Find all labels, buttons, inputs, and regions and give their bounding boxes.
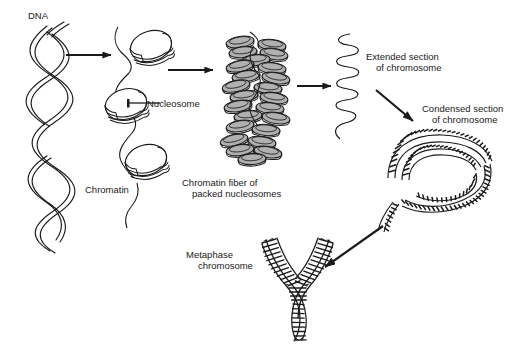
condensed-section-label-line1: Condensed section [422, 103, 503, 114]
extended-section-label-line2: of chromosome [376, 62, 441, 73]
arrow-extended-to-condensed [376, 90, 413, 121]
nucleosome-label: Nucleosome [147, 98, 200, 109]
chromatin-label: Chromatin [85, 184, 129, 195]
condensed-coil [378, 129, 492, 232]
arrow-condensed-to-metaphase [325, 226, 383, 267]
extended-section: Extended section of chromosome [336, 34, 442, 139]
chromatin-fiber: Chromatin fiber of packed nucleosomes [182, 32, 291, 199]
condensed-section: Condensed section of chromosome [378, 103, 503, 232]
diagram-canvas: DNA Nucleosome Chromatin [0, 0, 515, 347]
dna-double-helix: DNA [26, 10, 75, 253]
chromatin-fiber-disc-stack [219, 34, 291, 167]
dna-label: DNA [28, 10, 49, 21]
chromatin-fiber-label-line1: Chromatin fiber of [182, 177, 258, 188]
chromatin-fiber-label-line2: packed nucleosomes [192, 188, 281, 199]
nucleosome-bead-2 [102, 84, 151, 128]
nucleosome-bead-3 [122, 140, 172, 185]
nucleosome-bead-1 [127, 26, 177, 71]
metaphase-label-line2: chromosome [198, 260, 253, 271]
dna-packaging-diagram: DNA Nucleosome Chromatin [0, 0, 515, 347]
extended-section-label-line1: Extended section [366, 51, 439, 62]
metaphase-chromosome: Metaphase chromosome [186, 238, 333, 341]
metaphase-label-line1: Metaphase [186, 249, 233, 260]
condensed-section-label-line2: of chromosome [432, 114, 497, 125]
